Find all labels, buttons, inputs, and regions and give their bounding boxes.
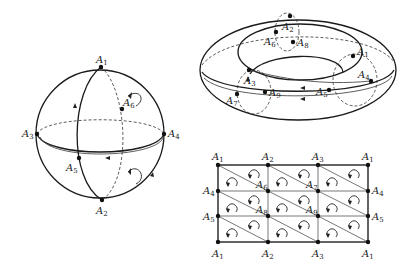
sphere-vertices: A1A2A3A4A5A6	[21, 54, 180, 218]
torus-vertex-label-a3: A3	[243, 75, 256, 88]
grid-label-a5: A5	[371, 211, 384, 224]
arrowhead-icon	[276, 208, 280, 213]
grid-label-a1: A1	[361, 151, 374, 164]
vertex-dot	[35, 132, 39, 136]
sphere-vertex-label-a6: A6	[122, 97, 135, 110]
grid-label-a2: A2	[261, 248, 274, 261]
torus-vertex-label-a9: A9	[268, 87, 281, 100]
arrowhead-icon	[248, 174, 252, 179]
vertex-dot	[100, 198, 104, 202]
torus-vertex-label-a6: A6	[263, 36, 276, 49]
vertex-dot	[366, 214, 370, 218]
vertex-dot	[366, 240, 370, 244]
grid-label-a4: A4	[202, 185, 215, 198]
vertex-dot	[351, 54, 355, 58]
sphere-vertex-label-a5: A5	[65, 162, 78, 175]
grid-label-a1: A1	[361, 248, 374, 261]
torus-diagram: A1A2A3A4A5A6A7A8A9	[200, 13, 396, 120]
grid-label-a8: A8	[255, 204, 268, 217]
arrowhead-icon	[348, 225, 352, 230]
torus-vertex-label-a8: A8	[296, 37, 309, 50]
torus-vertex-label-a2: A2	[281, 21, 294, 34]
vertex-dot	[288, 14, 292, 18]
torus-vertex-label-a5: A5	[315, 86, 328, 99]
arrowhead-icon	[226, 233, 230, 238]
sphere-outline	[36, 70, 164, 198]
sphere-equator-front	[37, 134, 164, 152]
arrowhead-icon	[73, 103, 77, 108]
vertex-dot	[266, 240, 270, 244]
arrowhead-icon	[298, 225, 302, 230]
arrowhead-icon	[298, 200, 302, 205]
arrowhead-icon	[348, 200, 352, 205]
arrowhead-icon	[105, 156, 110, 160]
grid-label-a9: A9	[305, 204, 318, 217]
sphere-meridian-front	[77, 67, 102, 200]
grid-diagonal-line	[318, 191, 368, 216]
sphere-vertex-label-a3: A3	[21, 128, 34, 141]
arrowhead-icon	[300, 97, 305, 101]
vertex-dot	[216, 214, 220, 218]
grid-label-a1: A1	[211, 248, 224, 261]
sphere-diagram: A1A2A3A4A5A6	[21, 54, 180, 218]
grid-label-a2: A2	[261, 151, 274, 164]
sphere-equator-back	[37, 120, 164, 134]
arrowhead-icon	[326, 182, 330, 187]
grid-label-a3: A3	[311, 151, 324, 164]
sphere-vertex-label-a2: A2	[95, 205, 108, 218]
vertex-dot	[235, 92, 239, 96]
grid-diagonal-line	[218, 216, 268, 242]
vertex-dot	[274, 30, 278, 34]
arrowhead-icon	[326, 233, 330, 238]
vertex-dot	[216, 240, 220, 244]
arrowhead-icon	[298, 174, 302, 179]
sphere-meridian-back	[101, 67, 123, 200]
vertex-dot	[263, 90, 267, 94]
arrowhead-icon	[276, 182, 280, 187]
arrowhead-icon	[128, 168, 131, 175]
grid-diagram: A1A2A3A1A4A6A7A4A5A8A9A5A1A2A3A1	[202, 151, 384, 261]
arrowhead-icon	[226, 182, 230, 187]
arrowhead-icon	[248, 225, 252, 230]
arrowhead-icon	[248, 200, 252, 205]
torus-vertex-label-a1: A1	[356, 46, 369, 59]
grid-label-a6: A6	[255, 179, 268, 192]
torus-vertex-label-a4: A4	[357, 69, 370, 82]
grid-label-a7: A7	[305, 179, 318, 192]
vertex-dot	[162, 132, 166, 136]
grid-diagonal-line	[318, 165, 368, 191]
torus-meridian-a2	[275, 13, 299, 51]
grid-diagonal-line	[318, 216, 368, 242]
vertex-dot	[247, 68, 251, 72]
arrowhead-icon	[276, 233, 280, 238]
figure-canvas: A1A2A3A4A5A6 A1A2A3A4A5A6A7A8A9 A1A2A3A1…	[0, 0, 402, 273]
torus-hole-lower-rim	[250, 56, 343, 74]
vertex-dot	[366, 189, 370, 193]
grid-diagonal-line	[268, 216, 318, 242]
grid-label-a4: A4	[371, 185, 384, 198]
grid-label-a1: A1	[211, 151, 224, 164]
vertex-dot	[316, 240, 320, 244]
arrowhead-icon	[300, 86, 305, 90]
arrowhead-icon	[226, 208, 230, 213]
vertex-dot	[291, 40, 295, 44]
vertex-dot	[77, 156, 81, 160]
sphere-vertex-label-a4: A4	[167, 128, 180, 141]
arrowhead-icon	[348, 174, 352, 179]
grid-label-a5: A5	[202, 211, 215, 224]
vertex-dot	[216, 189, 220, 193]
grid-label-a3: A3	[311, 248, 324, 261]
arrowhead-icon	[326, 208, 330, 213]
